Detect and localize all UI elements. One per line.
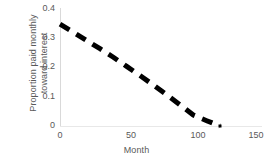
x-axis-title: Month	[0, 145, 273, 155]
y-tick-label-0: 0	[33, 120, 55, 130]
x-axis-spine	[60, 126, 262, 127]
y-axis-title: Proportion paid monthly toward interest	[2, 0, 32, 130]
y-tick-label-0.1: 0.1	[33, 91, 55, 101]
series-line	[60, 24, 220, 126]
y-axis-spine	[60, 8, 61, 126]
x-tick-label-100: 100	[178, 130, 218, 140]
chart-container: Proportion paid monthly toward interest …	[0, 0, 273, 161]
y-tick-label-0.4: 0.4	[33, 3, 55, 13]
x-tick-label-150: 150	[236, 130, 273, 140]
y-tick-label-0.3: 0.3	[33, 32, 55, 42]
x-tick-label-50: 50	[111, 130, 151, 140]
series-line-group	[60, 24, 220, 126]
y-tick-label-0.2: 0.2	[33, 61, 55, 71]
x-tick-label-0: 0	[40, 130, 80, 140]
